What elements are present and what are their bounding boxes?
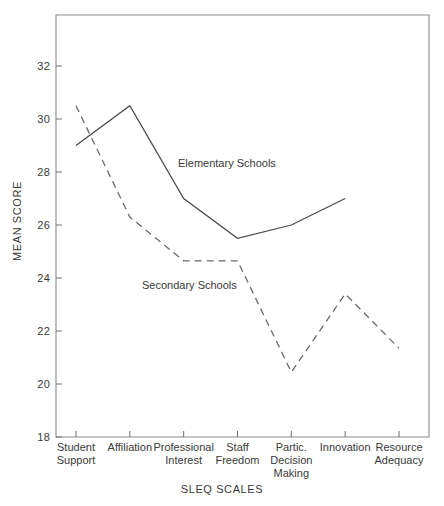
- y-axis-tick-value: 32: [24, 61, 50, 72]
- x-axis-tick-label-line: Support: [30, 454, 122, 467]
- x-axis-ticks: [76, 431, 399, 437]
- chart-canvas: [0, 0, 444, 506]
- x-axis-tick-label-line: Decision: [245, 454, 337, 467]
- annotation-secondary-schools: Secondary Schools: [142, 279, 237, 291]
- series-line-elementary-schools: [76, 106, 345, 239]
- y-axis-tick-value: 28: [24, 167, 50, 178]
- y-axis-tick-label: 26: [20, 220, 50, 231]
- y-axis-ticks: [56, 66, 62, 437]
- x-axis-tick-label-line: Making: [245, 467, 337, 480]
- y-axis-title: MEAN SCORE: [11, 161, 23, 281]
- x-axis-tick-label-line: Resource: [353, 441, 444, 454]
- y-axis-tick-label: 30: [20, 114, 50, 125]
- annotation-elementary-schools: Elementary Schools: [178, 157, 276, 169]
- x-axis-title: SLEQ SCALES: [0, 483, 444, 495]
- y-axis-tick-value: 22: [24, 326, 50, 337]
- chart-container: 1820222426283032 MEAN SCORE StudentSuppo…: [0, 0, 444, 506]
- x-axis-tick-label: ResourceAdequacy: [353, 441, 444, 467]
- series-line-secondary-schools: [76, 106, 399, 372]
- x-axis-tick-label-line: Adequacy: [353, 454, 444, 467]
- plot-frame: [56, 15, 429, 437]
- y-axis-tick-value: 24: [24, 273, 50, 284]
- y-axis-tick-value: 26: [24, 220, 50, 231]
- y-axis-tick-label: 28: [20, 167, 50, 178]
- y-axis-tick-label: 22: [20, 326, 50, 337]
- y-axis-tick-label: 32: [20, 61, 50, 72]
- y-axis-tick-label: 20: [20, 379, 50, 390]
- y-axis-tick-value: 30: [24, 114, 50, 125]
- y-axis-tick-value: 20: [24, 379, 50, 390]
- y-axis-tick-label: 24: [20, 273, 50, 284]
